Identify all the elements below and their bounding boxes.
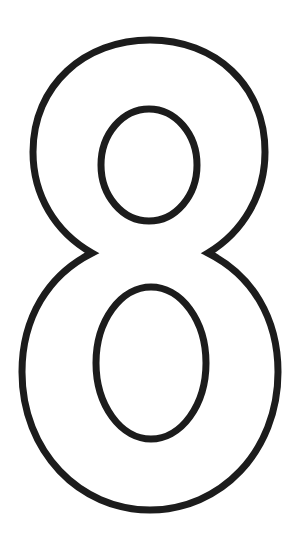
lower-counter	[96, 287, 206, 439]
digit-eight-icon	[0, 0, 297, 539]
upper-counter	[101, 109, 197, 221]
digit-eight-outline-canvas: 8	[0, 0, 297, 539]
